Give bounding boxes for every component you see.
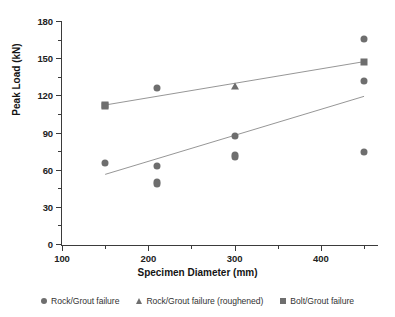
y-tick-major (56, 58, 61, 59)
y-tick-minor (58, 225, 61, 226)
plot-area (62, 22, 377, 245)
legend-label: Rock/Grout failure (51, 296, 119, 306)
legend-entry: Bolt/Grout failure (280, 296, 354, 306)
y-tick-minor (58, 151, 61, 152)
y-tick-major (56, 133, 61, 134)
y-tick-major (56, 170, 61, 171)
x-tick-label: 300 (227, 253, 243, 264)
y-tick-minor (58, 188, 61, 189)
legend-entry: Rock/Grout failure (roughened) (136, 296, 263, 306)
y-axis-ticks: 0306090120150180 (0, 21, 61, 246)
triangle-marker-icon (136, 298, 142, 304)
data-point-circle (153, 84, 160, 91)
x-tick-minor (278, 246, 279, 249)
data-point-circle (153, 162, 160, 169)
x-tick-label: 400 (313, 253, 329, 264)
y-tick-minor (58, 40, 61, 41)
y-tick-label: 30 (43, 201, 53, 212)
data-point-circle (231, 154, 238, 161)
legend-entry: Rock/Grout failure (41, 296, 119, 306)
y-tick-label: 150 (37, 53, 53, 64)
x-tick-label: 200 (141, 253, 157, 264)
x-tick-major (148, 246, 149, 251)
scatter-chart-figure: 0306090120150180 100200300400 Peak Load … (0, 0, 395, 317)
legend-label: Rock/Grout failure (roughened) (146, 296, 263, 306)
square-marker-icon (280, 298, 286, 304)
x-tick-minor (105, 246, 106, 249)
y-tick-major (56, 95, 61, 96)
y-tick-label: 120 (37, 90, 53, 101)
data-point-layer (62, 22, 377, 245)
data-point-circle (231, 132, 238, 139)
data-point-circle (153, 181, 160, 188)
y-tick-minor (58, 77, 61, 78)
data-point-square (102, 103, 109, 110)
data-point-circle (361, 149, 368, 156)
data-point-circle (102, 160, 109, 167)
x-tick-minor (364, 246, 365, 249)
y-tick-major (56, 21, 61, 22)
data-point-square (361, 58, 368, 65)
y-tick-major (56, 244, 61, 245)
circle-marker-icon (41, 298, 47, 304)
y-tick-label: 60 (43, 164, 53, 175)
x-tick-major (62, 246, 63, 251)
x-axis-title: Specimen Diameter (mm) (0, 267, 395, 278)
data-point-triangle (231, 83, 239, 90)
chart-legend: Rock/Grout failureRock/Grout failure (ro… (0, 296, 395, 306)
y-tick-major (56, 207, 61, 208)
x-tick-minor (191, 246, 192, 249)
legend-label: Bolt/Grout failure (290, 296, 354, 306)
data-point-circle (361, 36, 368, 43)
y-axis-title: Peak Load (kN) (11, 20, 22, 140)
x-tick-major (235, 246, 236, 251)
data-point-circle (361, 78, 368, 85)
y-tick-label: 90 (43, 127, 53, 138)
y-tick-minor (58, 114, 61, 115)
y-tick-label: 180 (37, 16, 53, 27)
x-tick-label: 100 (54, 253, 70, 264)
x-tick-major (321, 246, 322, 251)
